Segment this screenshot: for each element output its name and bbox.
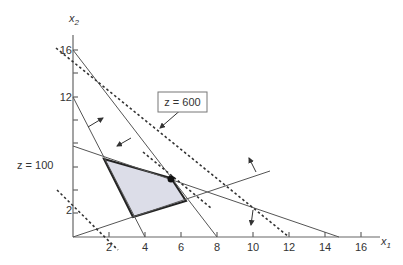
svg-text:16: 16 [60,44,72,56]
x-axis-label: x1 [380,235,391,250]
svg-text:6: 6 [178,241,184,253]
optimal-point [168,176,175,183]
svg-text:2: 2 [106,241,112,253]
axes [73,35,380,237]
objective-lines [56,48,289,250]
lp-diagram: z = 600 z = 100 2 4 6 8 10 12 14 16 2 12… [0,0,403,265]
svg-text:12: 12 [60,91,72,103]
z600-label: z = 600 [164,96,200,108]
svg-text:16: 16 [355,241,367,253]
x-tick-labels: 2 4 6 8 10 12 14 16 [106,241,367,253]
y-tick-labels: 2 12 16 [60,44,72,216]
objective-z600 [56,48,289,237]
arrow-c1 [117,138,131,146]
constraint-lines [73,50,339,237]
svg-text:10: 10 [247,241,259,253]
arrow-c4 [249,158,256,172]
feasible-region [104,159,186,217]
svg-text:14: 14 [319,241,331,253]
svg-text:4: 4 [142,241,148,253]
svg-text:8: 8 [214,241,220,253]
z100-label: z = 100 [17,159,53,171]
arrow-c3 [251,210,253,225]
arrow-c2 [88,118,103,127]
y-axis-label: x2 [68,12,80,27]
svg-text:2: 2 [66,204,72,216]
svg-text:12: 12 [283,241,295,253]
